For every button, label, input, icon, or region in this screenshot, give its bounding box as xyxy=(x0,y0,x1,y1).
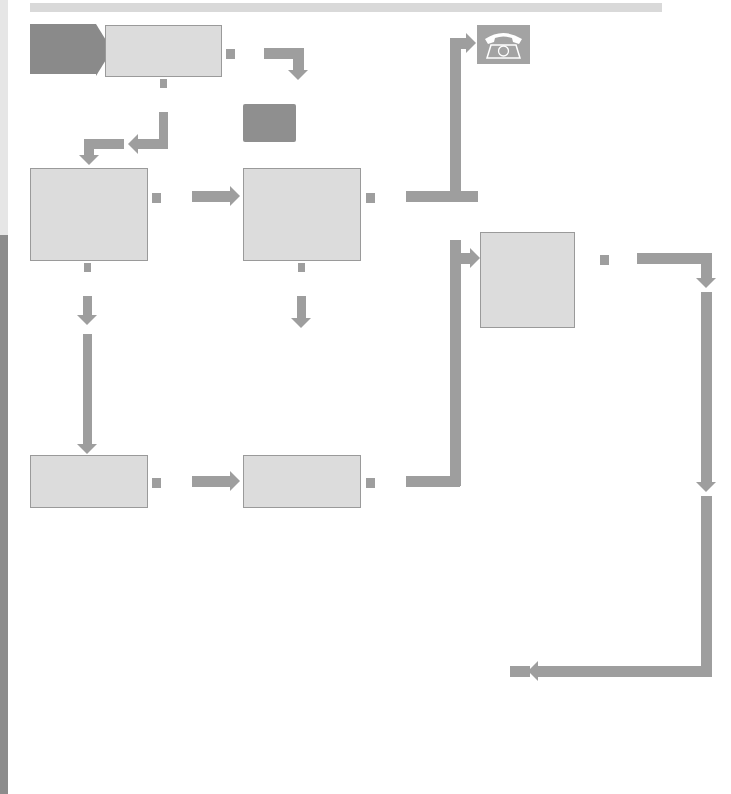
arrow-head-right xyxy=(466,33,476,53)
question-viral-infection xyxy=(480,232,575,328)
arrow-q1-no-horiz xyxy=(138,139,168,149)
arrow-head-down xyxy=(288,70,308,80)
yes-label-q4 xyxy=(600,250,611,268)
arrow-q2-yes xyxy=(192,191,230,202)
arrow-q1-no-horiz2 xyxy=(90,139,124,149)
yes-label-q5 xyxy=(152,473,163,491)
no-chip-q2 xyxy=(84,263,91,272)
arrow-q2-no xyxy=(83,296,92,316)
question-recent-injury xyxy=(30,168,148,261)
arrow-head-down xyxy=(77,315,97,325)
arrow-q6-yes-top xyxy=(450,253,472,264)
arrow-q1-no-drop xyxy=(84,139,94,156)
arrow-q3-yes-vert xyxy=(450,38,461,168)
arrow-q4-yes-long1 xyxy=(701,292,712,482)
arrow-head-down xyxy=(696,482,716,492)
telephone-icon xyxy=(477,25,530,64)
arrow-q3-no xyxy=(297,296,306,318)
arrow-head-left xyxy=(128,134,138,154)
header-rule-left xyxy=(30,3,332,12)
emergency-dislocation-text xyxy=(477,66,717,70)
arrow-q4-yes-horiz2 xyxy=(510,666,530,677)
header-rule-right xyxy=(332,3,662,12)
page-edge-tab xyxy=(0,235,8,794)
arrow-q6-yes-up xyxy=(450,240,461,486)
arrow-q2-no-long xyxy=(83,334,92,444)
yes-label-q3 xyxy=(366,188,377,206)
arrow-head-right xyxy=(230,471,240,491)
arrow-head-down xyxy=(77,444,97,454)
yes-label-q2 xyxy=(152,188,163,206)
question-unable-to-move xyxy=(243,168,361,261)
arrow-q5-yes xyxy=(192,476,230,487)
question-knee-only xyxy=(105,25,222,77)
arrow-q4-yes-bend xyxy=(701,253,712,278)
arrow-q4-yes-horiz xyxy=(538,666,712,677)
start-here-arrow xyxy=(30,24,96,74)
arrow-q1-yes-bend xyxy=(293,48,304,70)
arrow-head-down xyxy=(79,155,99,165)
no-chip-q1 xyxy=(160,79,167,88)
yes-label-q1 xyxy=(226,44,237,62)
arrow-q4-yes-long2 xyxy=(701,496,712,676)
arrow-q4-yes xyxy=(637,253,703,264)
yes-label-q6 xyxy=(366,473,377,491)
chart-number-badge[interactable] xyxy=(243,104,296,142)
minor-injury-text xyxy=(242,333,462,337)
arrow-head-right xyxy=(230,186,240,206)
arrow-head-down xyxy=(696,278,716,288)
no-chip-q3 xyxy=(298,263,305,272)
question-more-than-one-joint xyxy=(243,455,361,508)
question-painful-swollen-hot xyxy=(30,455,148,508)
arrow-head-down xyxy=(291,318,311,328)
arrow-head-right xyxy=(470,248,480,268)
arrow-q3-yes xyxy=(406,191,478,202)
